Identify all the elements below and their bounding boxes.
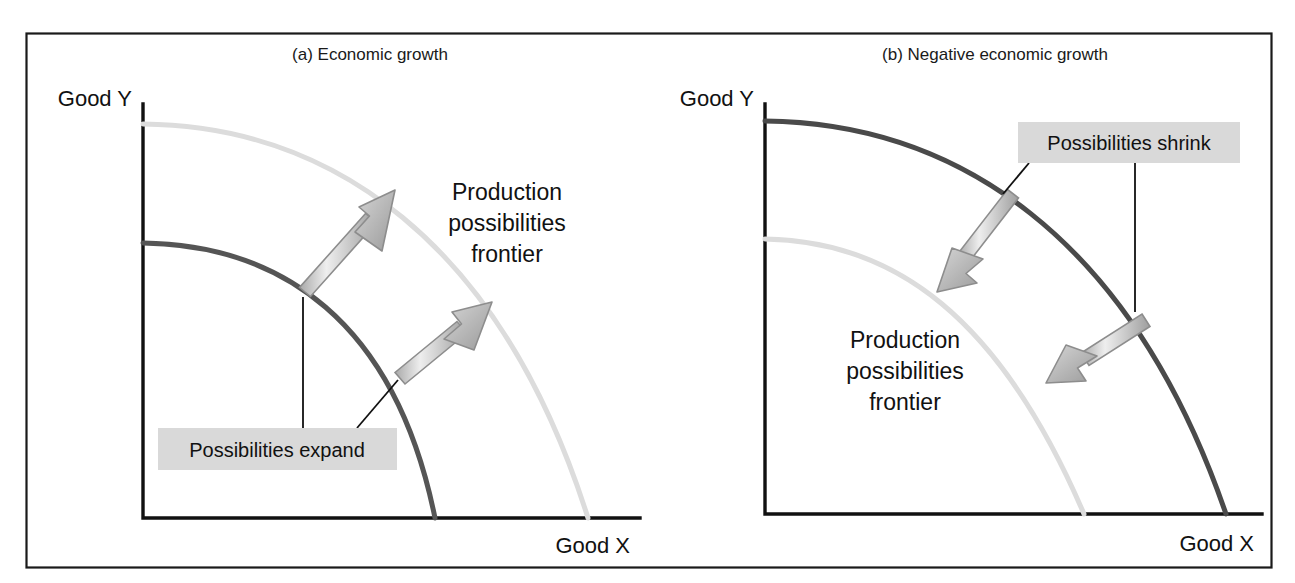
panel-a-x-axis-label: Good X — [555, 533, 630, 558]
panel-b-tag-possibilities-shrink: Possibilities shrink — [1018, 122, 1240, 163]
panel-b-y-axis-label: Good Y — [680, 86, 755, 111]
frontier-label-line-1: Production — [850, 327, 960, 353]
figure-outer-frame — [27, 34, 1272, 568]
tag-label: Possibilities expand — [189, 439, 365, 461]
panel-b-title: (b) Negative economic growth — [882, 45, 1108, 64]
tag-label: Possibilities shrink — [1047, 132, 1211, 154]
figure-canvas: (a) Economic growth Good Y Good X Produc… — [0, 0, 1295, 583]
panel-a-tag-possibilities-expand: Possibilities expand — [158, 428, 397, 470]
ppf-economic-growth-diagram: (a) Economic growth Good Y Good X Produc… — [0, 0, 1295, 583]
frontier-label-line-1: Production — [452, 179, 562, 205]
panel-a-title: (a) Economic growth — [292, 45, 448, 64]
frontier-label-line-3: frontier — [869, 389, 941, 415]
frontier-label-line-2: possibilities — [846, 358, 964, 384]
frontier-label-line-2: possibilities — [448, 210, 566, 236]
frontier-label-line-3: frontier — [471, 241, 543, 267]
panel-a-y-axis-label: Good Y — [58, 86, 133, 111]
panel-b-x-axis-label: Good X — [1179, 531, 1254, 556]
